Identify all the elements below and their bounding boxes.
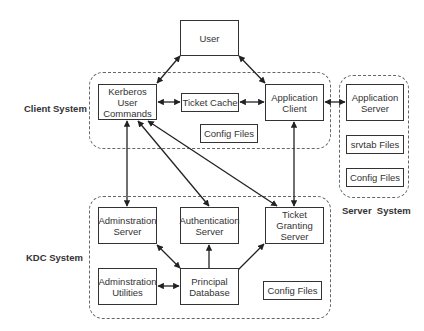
srvtab-files-node: srvtab Files [346, 135, 404, 154]
administration-server-node: Adminstration Server [98, 207, 157, 244]
ticket-cache-node: Ticket Cache [181, 93, 239, 112]
user-node: User [180, 20, 239, 56]
server-config-files-node: Config Files [346, 168, 404, 187]
administration-utilities-node: Adminstration Utilities [98, 268, 157, 305]
application-server-node: Application Server [346, 84, 404, 121]
authentication-server-node: Authentication Server [180, 207, 239, 244]
ticket-granting-server-node: Ticket Granting Server [265, 207, 324, 244]
application-client-node: Application Client [265, 84, 324, 121]
principal-database-node: Principal Database [180, 268, 239, 305]
kdc-config-files-node: Config Files [263, 281, 322, 300]
kerberos-user-commands-node: Kerberos User Commands [98, 84, 157, 120]
client-config-files-node: Config Files [200, 124, 258, 143]
